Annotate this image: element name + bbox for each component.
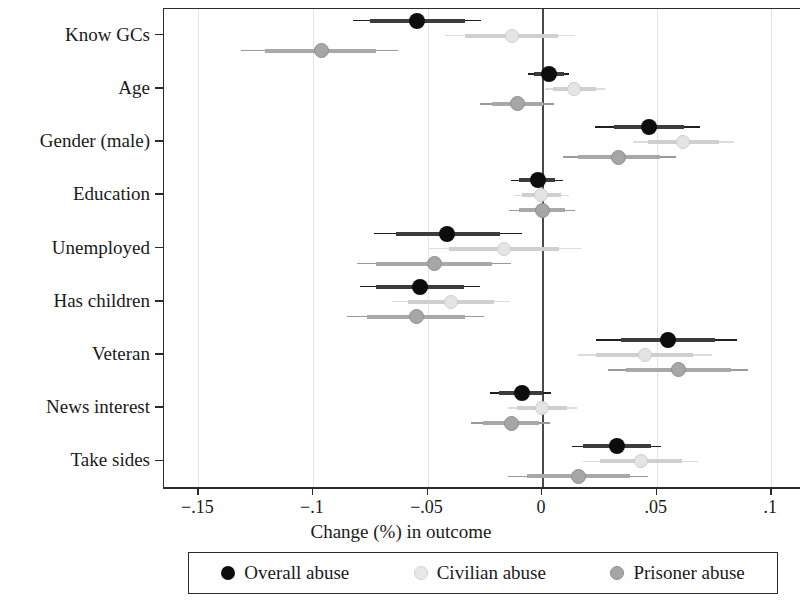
gridline-x-0: [198, 9, 199, 487]
x-tick-label-4: .05: [621, 496, 691, 518]
legend-marker-overall-icon: [221, 566, 235, 580]
x-axis-title: Change (%) in outcome: [0, 521, 802, 543]
x-tick-5: [770, 487, 771, 495]
x-tick-label-5: .1: [735, 496, 802, 518]
legend-marker-prisoner-icon: [610, 566, 624, 580]
y-tick-5: [155, 300, 163, 302]
x-tick-3: [541, 487, 542, 495]
y-axis-label-veteran: Veteran: [0, 343, 150, 365]
point-marker: [505, 29, 519, 43]
y-tick-3: [155, 193, 163, 195]
y-axis-label-has-children: Has children: [0, 290, 150, 312]
x-tick-label-1: −.1: [277, 496, 347, 518]
legend-item-civilian: Civilian abuse: [414, 562, 546, 584]
y-tick-2: [155, 140, 163, 142]
x-axis-line: [163, 487, 800, 489]
gridline-x-4: [657, 9, 658, 487]
point-marker: [530, 172, 546, 188]
point-marker: [514, 385, 530, 401]
x-tick-1: [312, 487, 313, 495]
y-tick-8: [155, 460, 163, 462]
legend-label-prisoner: Prisoner abuse: [633, 562, 744, 584]
coefficient-plot-figure: Know GCsAgeGender (male)EducationUnemplo…: [0, 0, 802, 602]
point-marker: [611, 150, 626, 165]
point-marker: [497, 242, 511, 256]
point-marker: [412, 279, 428, 295]
y-tick-1: [155, 87, 163, 89]
point-marker: [314, 43, 329, 58]
y-tick-6: [155, 353, 163, 355]
point-marker: [409, 309, 424, 324]
legend-item-overall: Overall abuse: [221, 562, 349, 584]
y-tick-4: [155, 247, 163, 249]
gridline-x-5: [771, 9, 772, 487]
point-marker: [504, 416, 519, 431]
x-tick-2: [427, 487, 428, 495]
point-marker: [409, 13, 425, 29]
point-marker: [439, 226, 455, 242]
gridline-x-1: [313, 9, 314, 487]
y-axis-label-take-sides: Take sides: [0, 449, 150, 471]
point-marker: [510, 96, 525, 111]
point-marker: [427, 256, 442, 271]
legend-item-prisoner: Prisoner abuse: [610, 562, 744, 584]
x-tick-0: [197, 487, 198, 495]
point-marker: [444, 295, 458, 309]
legend-label-civilian: Civilian abuse: [437, 562, 546, 584]
y-axis-label-know-gcs: Know GCs: [0, 24, 150, 46]
legend: Overall abuse Civilian abuse Prisoner ab…: [188, 552, 778, 594]
x-tick-4: [656, 487, 657, 495]
y-axis-label-news-interest: News interest: [0, 396, 150, 418]
y-axis-label-unemployed: Unemployed: [0, 237, 150, 259]
legend-marker-civilian-icon: [414, 566, 428, 580]
legend-label-overall: Overall abuse: [244, 562, 349, 584]
x-tick-label-3: 0: [506, 496, 576, 518]
x-tick-label-2: −.05: [392, 496, 462, 518]
y-axis-label-age: Age: [0, 77, 150, 99]
point-marker: [541, 66, 557, 82]
point-marker: [535, 203, 550, 218]
y-tick-0: [155, 34, 163, 36]
point-marker: [641, 119, 657, 135]
x-tick-label-0: −.15: [162, 496, 232, 518]
point-marker: [609, 438, 625, 454]
y-tick-7: [155, 406, 163, 408]
y-axis-label-education: Education: [0, 183, 150, 205]
y-axis-label-gender-male: Gender (male): [0, 130, 150, 152]
